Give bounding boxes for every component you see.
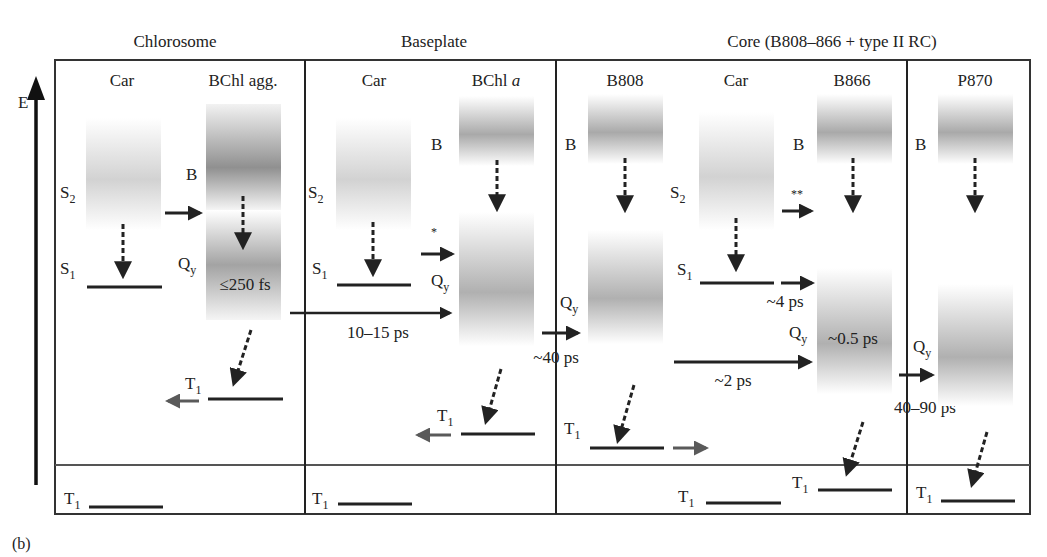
dashed-arrow-qy-t1: [619, 385, 634, 437]
level-s1: S1: [677, 260, 692, 283]
level-s2: S2: [60, 183, 75, 206]
panel-baseplate: Car BChl a S2 B S1 Qy * T1 T1: [308, 71, 535, 512]
b866-b-band: [817, 94, 892, 164]
arrow-up-icon: [27, 76, 45, 100]
level-qy: Qy: [178, 254, 196, 277]
dashed-arrow-qy-t1: [973, 432, 987, 481]
level-b: B: [431, 135, 442, 154]
level-s2: S2: [308, 183, 323, 206]
level-qy: Qy: [560, 293, 578, 316]
column-label-b808: B808: [607, 71, 644, 90]
car-s2-band: [699, 112, 774, 230]
level-b: B: [565, 135, 576, 154]
section-title-baseplate: Baseplate: [401, 32, 467, 51]
timescale-4ps: ~4 ps: [766, 292, 803, 311]
energy-axis: E: [18, 76, 45, 485]
level-t1-car: T1: [312, 489, 328, 512]
level-qy: Qy: [431, 271, 449, 294]
column-label-bchl-a: BChl a: [472, 71, 521, 90]
column-label-bchl-agg: BChl agg.: [209, 71, 278, 90]
level-t1: T1: [916, 483, 932, 506]
level-qy: Qy: [789, 323, 807, 346]
column-label-car: Car: [110, 71, 135, 90]
level-t1-car: T1: [678, 487, 694, 510]
section-title-core: Core (B808–866 + type II RC): [727, 32, 936, 51]
bchl-b-band: [206, 104, 281, 210]
column-label-p870: P870: [958, 71, 993, 90]
panel-chlorosome: Car BChl agg. S2 B Qy S1 ≤250 fs T1 T1: [60, 71, 283, 512]
level-t1: T1: [792, 473, 808, 496]
level-s1: S1: [60, 259, 75, 282]
level-t1-car: T1: [64, 489, 80, 512]
column-label-car: Car: [724, 71, 749, 90]
car-s2-band: [336, 118, 411, 230]
p870-b-band: [938, 94, 1013, 164]
timescale-2ps: ~2 ps: [714, 371, 751, 390]
panel-reaction-center: P870 B Qy T1: [913, 71, 1015, 506]
level-t1: T1: [185, 374, 201, 397]
timescale-250fs: ≤250 fs: [219, 275, 270, 294]
level-t1: T1: [564, 419, 580, 442]
bchl-qy-band: [459, 212, 534, 346]
timescale-40ps: ~40 ps: [533, 348, 579, 367]
marker-asterisk: *: [431, 225, 437, 239]
level-s1: S1: [312, 259, 327, 282]
axis-label: E: [18, 93, 28, 112]
column-label-car: Car: [362, 71, 387, 90]
dashed-arrow-qy-t1: [487, 369, 501, 418]
level-b: B: [793, 135, 804, 154]
column-label-b866: B866: [834, 71, 871, 90]
level-qy: Qy: [913, 337, 931, 360]
marker-double-asterisk: **: [791, 187, 803, 201]
timescale-0-5ps: ~0.5 ps: [828, 329, 878, 348]
car-s2-band: [86, 118, 161, 230]
level-b: B: [186, 165, 197, 184]
figure-label: (b): [12, 535, 31, 553]
bchl-b-band: [459, 96, 534, 166]
dashed-arrow-qy-t1: [848, 422, 863, 470]
b808-qy-band: [588, 230, 663, 344]
timescale-10-15ps: 10–15 ps: [347, 323, 409, 342]
energy-level-diagram: Chlorosome Baseplate Core (B808–866 + ty…: [0, 0, 1047, 557]
b808-b-band: [588, 94, 663, 164]
p870-qy-band: [938, 284, 1013, 406]
section-title-chlorosome: Chlorosome: [133, 32, 216, 51]
level-b: B: [915, 135, 926, 154]
level-s2: S2: [670, 183, 685, 206]
panel-core: B808 Car B866 B Qy T1 S2 S1 ~4 ps ** B Q…: [560, 71, 892, 510]
dashed-arrow-qy-t1: [235, 330, 251, 380]
level-t1: T1: [437, 406, 453, 429]
bchl-qy-band: [206, 210, 281, 320]
